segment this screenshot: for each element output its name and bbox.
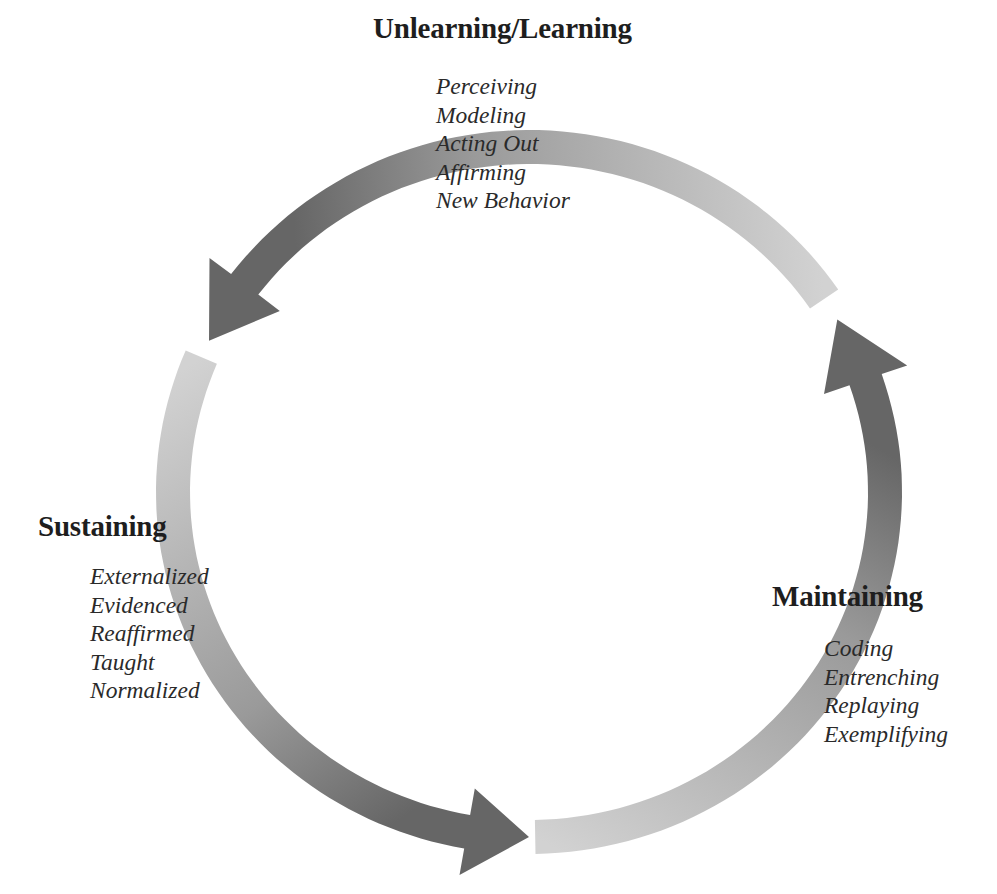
stage-title-unlearning-learning: Unlearning/Learning (373, 12, 632, 45)
stage-title-maintaining: Maintaining (772, 580, 923, 613)
stage-items-unlearning-learning: Perceiving Modeling Acting Out Affirming… (436, 72, 570, 215)
stage-item: Perceiving (436, 72, 570, 101)
stage-item: Acting Out (436, 129, 570, 158)
stage-item: Modeling (436, 101, 570, 130)
stage-item: Affirming (436, 158, 570, 187)
stage-item: Evidenced (90, 591, 209, 620)
stage-item: Taught (90, 648, 209, 677)
stage-item: Replaying (824, 691, 948, 720)
stage-item: Normalized (90, 676, 209, 705)
stage-item: Entrenching (824, 663, 948, 692)
stage-item: Exemplifying (824, 720, 948, 749)
stage-item: Reaffirmed (90, 619, 209, 648)
stage-items-maintaining: Coding Entrenching Replaying Exemplifyin… (824, 634, 948, 748)
stage-title-sustaining: Sustaining (38, 510, 167, 543)
stage-item: Coding (824, 634, 948, 663)
stage-item: Externalized (90, 562, 209, 591)
stage-item: New Behavior (436, 186, 570, 215)
cycle-arrow-sustaining-to-maintaining (156, 351, 529, 876)
cycle-arrows (156, 130, 907, 875)
stage-items-sustaining: Externalized Evidenced Reaffirmed Taught… (90, 562, 209, 705)
